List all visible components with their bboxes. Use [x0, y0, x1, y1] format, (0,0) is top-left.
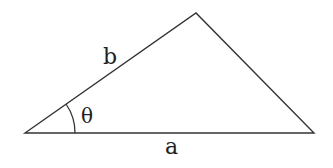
- angle-arc: [66, 104, 75, 133]
- side-b-label: b: [103, 44, 117, 69]
- triangle-diagram: b θ a: [0, 0, 333, 168]
- side-a-label: a: [165, 134, 178, 159]
- angle-theta-label: θ: [81, 104, 93, 128]
- triangle-shape: [25, 13, 314, 133]
